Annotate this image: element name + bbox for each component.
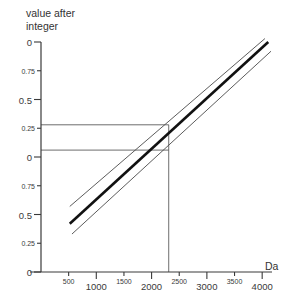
- y-tick-label: 0.75: [21, 67, 35, 74]
- x-axis-title: Da: [265, 260, 278, 273]
- x-tick-label: 500: [63, 278, 75, 285]
- y-tick-label: 0.5: [19, 209, 32, 220]
- y-tick-label: 0.75: [21, 182, 35, 189]
- chart-plot-area: [0, 0, 292, 304]
- axes-group: [30, 42, 272, 272]
- x-tick-label: 2000: [141, 281, 162, 292]
- y-axis-title: value after integer: [26, 7, 75, 32]
- series-line-upper-bound: [70, 39, 265, 207]
- chart-container: value after integer Da 00.750.50.2500.75…: [0, 0, 292, 304]
- x-tick-label: 1000: [86, 281, 107, 292]
- y-tick-label: 0.25: [21, 240, 35, 247]
- x-tick-label: 3500: [227, 278, 243, 285]
- y-tick-label: 0: [27, 267, 32, 278]
- data-series-group: [70, 39, 271, 235]
- y-tick-label: 0.5: [19, 94, 32, 105]
- reference-lines-group: [41, 125, 169, 272]
- series-line-lower-bound: [72, 51, 271, 234]
- x-tick-label: 1500: [116, 278, 132, 285]
- x-tick-label: 4000: [252, 281, 273, 292]
- y-tick-label: 0: [27, 37, 32, 48]
- x-tick-label: 3000: [196, 281, 217, 292]
- y-tick-label: 0: [27, 152, 32, 163]
- x-tick-label: 2500: [171, 278, 187, 285]
- y-tick-label: 0.25: [21, 125, 35, 132]
